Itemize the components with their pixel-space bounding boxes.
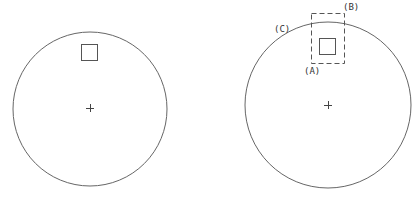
right-center-mark-icon [324, 101, 332, 109]
left-panel [13, 32, 167, 186]
right-square [320, 39, 336, 55]
diagram-canvas: (A) (B) (C) [0, 0, 416, 197]
label-c: (C) [274, 24, 290, 34]
label-a: (A) [304, 66, 320, 76]
label-b: (B) [343, 2, 359, 12]
right-panel: (A) (B) (C) [245, 2, 411, 188]
left-center-mark-icon [86, 104, 94, 112]
left-square [82, 45, 98, 61]
